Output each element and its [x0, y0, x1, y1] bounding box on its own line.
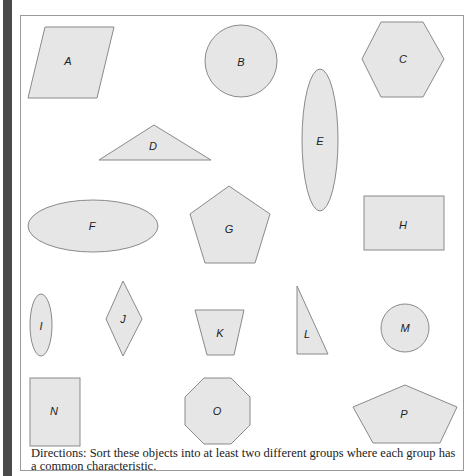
shape-m: M: [381, 304, 429, 352]
shape-label: M: [400, 322, 410, 334]
shape-l: L: [297, 286, 328, 354]
shape-d: D: [99, 125, 211, 160]
shape-label: E: [316, 135, 324, 147]
shape-o: O: [185, 378, 250, 444]
shape-h: H: [364, 196, 444, 250]
shape-label: O: [213, 405, 222, 417]
directions-text: Directions: Sort these objects into at l…: [31, 447, 461, 473]
shape-label: J: [119, 313, 126, 325]
shape-k: K: [195, 310, 244, 355]
shape-i: I: [30, 294, 52, 356]
shape-b: B: [205, 25, 277, 97]
shape-p: P: [353, 385, 457, 443]
shape-label: G: [225, 223, 234, 235]
shape-label: N: [50, 405, 58, 417]
shape-label: L: [304, 328, 310, 340]
shape-label: P: [400, 408, 408, 420]
shape-label: B: [237, 56, 244, 68]
shape-c: C: [362, 22, 444, 97]
shape-label: A: [63, 55, 71, 67]
shape-j: J: [106, 281, 142, 356]
shapes-canvas: A B C D E F G H I J: [0, 0, 476, 476]
shape-label: I: [39, 320, 42, 332]
shape-label: H: [399, 219, 407, 231]
shape-a: A: [28, 27, 114, 98]
shape-e: E: [302, 69, 338, 211]
shape-n: N: [30, 378, 80, 446]
shape-f: F: [28, 200, 158, 252]
shape-label: D: [149, 140, 157, 152]
shape-g: G: [190, 186, 270, 263]
shape-label: C: [399, 53, 407, 65]
shape-label: K: [216, 327, 224, 339]
